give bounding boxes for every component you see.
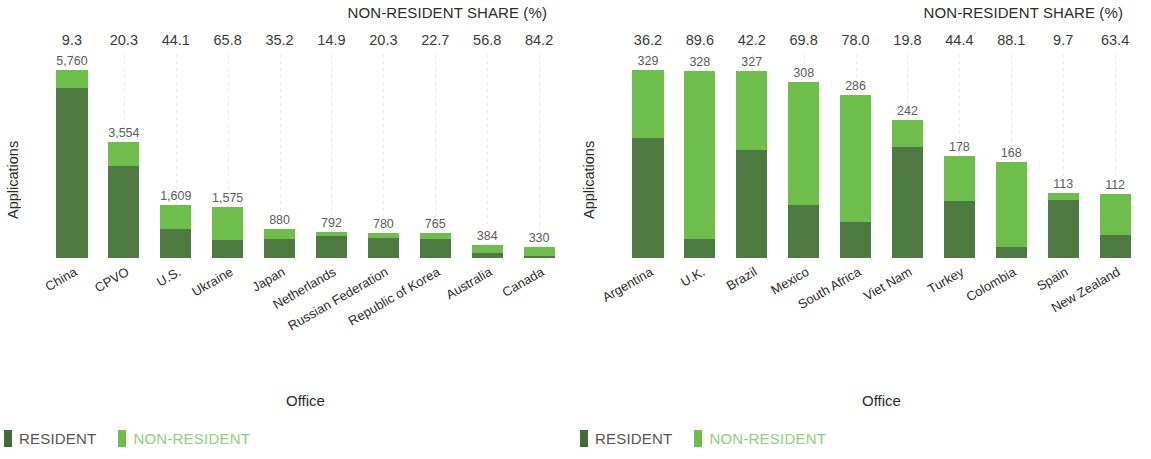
bar-slot[interactable]: 1,575 bbox=[202, 54, 254, 258]
chart-panel-right: NON-RESIDENT SHARE (%) 36.289.642.269.87… bbox=[576, 0, 1151, 459]
stacked-bar[interactable] bbox=[420, 233, 451, 258]
non-resident-share-value: 42.2 bbox=[726, 30, 778, 50]
plot-area-right: 329328327308286242178168113112 bbox=[622, 54, 1141, 258]
stacked-bar[interactable] bbox=[316, 232, 347, 258]
bar-slot[interactable]: 384 bbox=[461, 54, 513, 258]
bar-segment-non-resident[interactable] bbox=[524, 247, 555, 256]
stacked-bar[interactable] bbox=[1048, 193, 1079, 258]
bar-segment-non-resident[interactable] bbox=[56, 70, 87, 87]
bar-slot[interactable]: 792 bbox=[306, 54, 358, 258]
stacked-bar[interactable] bbox=[108, 142, 139, 258]
bar-segment-resident[interactable] bbox=[736, 150, 767, 258]
stacked-bar[interactable] bbox=[996, 162, 1027, 258]
non-resident-share-value: 63.4 bbox=[1089, 30, 1141, 50]
stacked-bar[interactable] bbox=[632, 70, 663, 258]
bar-segment-non-resident[interactable] bbox=[736, 71, 767, 150]
bar-segment-non-resident[interactable] bbox=[160, 205, 191, 228]
bar-segment-resident[interactable] bbox=[264, 239, 295, 258]
bar-segment-resident[interactable] bbox=[892, 147, 923, 258]
category-slot: Australia bbox=[461, 258, 513, 363]
bar-segment-resident[interactable] bbox=[996, 247, 1027, 258]
bar-segment-resident[interactable] bbox=[368, 238, 399, 258]
bar-segment-resident[interactable] bbox=[1048, 200, 1079, 258]
bar-slot[interactable]: 780 bbox=[357, 54, 409, 258]
bar-segment-non-resident[interactable] bbox=[108, 142, 139, 166]
bar-slot[interactable]: 112 bbox=[1089, 54, 1141, 258]
bar-segment-non-resident[interactable] bbox=[840, 95, 871, 222]
bar-slot[interactable]: 308 bbox=[778, 54, 830, 258]
stacked-bar[interactable] bbox=[524, 247, 555, 258]
bar-slot[interactable]: 5,760 bbox=[46, 54, 98, 258]
bar-segment-resident[interactable] bbox=[788, 205, 819, 258]
bar-segment-non-resident[interactable] bbox=[1100, 194, 1131, 235]
stacked-bar[interactable] bbox=[788, 82, 819, 258]
bar-slot[interactable]: 328 bbox=[674, 54, 726, 258]
bar-slot[interactable]: 330 bbox=[513, 54, 565, 258]
stacked-bar[interactable] bbox=[264, 229, 295, 258]
stacked-bar[interactable] bbox=[736, 71, 767, 258]
legend-item-resident: RESIDENT bbox=[580, 430, 672, 447]
bar-slot[interactable]: 765 bbox=[409, 54, 461, 258]
bar-slot[interactable]: 880 bbox=[254, 54, 306, 258]
bar-slot[interactable]: 168 bbox=[985, 54, 1037, 258]
x-axis-category-labels-right: ArgentinaU.K.BrazilMexicoSouth AfricaVie… bbox=[622, 258, 1141, 363]
non-resident-share-value: 22.7 bbox=[409, 30, 461, 50]
x-axis-tick-label: CPVO bbox=[92, 264, 131, 295]
bar-segment-non-resident[interactable] bbox=[632, 70, 663, 138]
legend-swatch-non-resident-icon bbox=[118, 430, 126, 447]
stacked-bar[interactable] bbox=[944, 156, 975, 258]
legend-swatch-resident-icon bbox=[4, 430, 12, 447]
category-slot: New Zealand bbox=[1089, 258, 1141, 363]
bar-slot[interactable]: 329 bbox=[622, 54, 674, 258]
bar-segment-resident[interactable] bbox=[56, 88, 87, 259]
bar-slot[interactable]: 242 bbox=[882, 54, 934, 258]
legend-right: RESIDENT NON-RESIDENT bbox=[580, 430, 826, 447]
stacked-bar[interactable] bbox=[1100, 194, 1131, 258]
chart-panel-left: NON-RESIDENT SHARE (%) 9.320.344.165.835… bbox=[0, 0, 575, 459]
bar-segment-non-resident[interactable] bbox=[264, 229, 295, 239]
bar-segment-resident[interactable] bbox=[108, 166, 139, 258]
bar-segment-resident[interactable] bbox=[160, 229, 191, 258]
stacked-bar[interactable] bbox=[212, 207, 243, 258]
bar-slot[interactable]: 327 bbox=[726, 54, 778, 258]
bar-segment-resident[interactable] bbox=[212, 240, 243, 258]
bar-slot[interactable]: 286 bbox=[830, 54, 882, 258]
bar-segment-resident[interactable] bbox=[632, 138, 663, 258]
bar-segment-non-resident[interactable] bbox=[996, 162, 1027, 247]
stacked-bar[interactable] bbox=[892, 120, 923, 258]
bar-segment-non-resident[interactable] bbox=[684, 71, 715, 239]
bar-segment-resident[interactable] bbox=[1100, 235, 1131, 258]
bar-slot[interactable]: 1,609 bbox=[150, 54, 202, 258]
stacked-bar[interactable] bbox=[684, 71, 715, 258]
bar-value-label: 3,554 bbox=[98, 126, 150, 140]
non-resident-share-value: 9.3 bbox=[46, 30, 98, 50]
bar-segment-resident[interactable] bbox=[316, 236, 347, 258]
bar-value-label: 112 bbox=[1089, 178, 1141, 192]
bar-segment-non-resident[interactable] bbox=[944, 156, 975, 201]
stacked-bar[interactable] bbox=[840, 95, 871, 258]
bar-segment-non-resident[interactable] bbox=[892, 120, 923, 147]
legend-label-non-resident: NON-RESIDENT bbox=[133, 430, 250, 447]
chart-page: NON-RESIDENT SHARE (%) 9.320.344.165.835… bbox=[0, 0, 1151, 459]
bar-slot[interactable]: 3,554 bbox=[98, 54, 150, 258]
bar-value-label: 1,609 bbox=[150, 189, 202, 203]
bar-segment-non-resident[interactable] bbox=[788, 82, 819, 205]
bar-value-label: 780 bbox=[357, 217, 409, 231]
stacked-bar[interactable] bbox=[472, 245, 503, 258]
bar-segment-non-resident[interactable] bbox=[472, 245, 503, 252]
stacked-bar[interactable] bbox=[160, 205, 191, 258]
bar-segment-resident[interactable] bbox=[420, 239, 451, 258]
bar-value-label: 792 bbox=[306, 216, 358, 230]
category-slot: Brazil bbox=[726, 258, 778, 363]
bar-segment-resident[interactable] bbox=[840, 222, 871, 258]
bar-slot[interactable]: 178 bbox=[933, 54, 985, 258]
bar-segment-resident[interactable] bbox=[944, 201, 975, 258]
x-axis-tick-label: Argentina bbox=[600, 264, 656, 305]
stacked-bar[interactable] bbox=[56, 70, 87, 258]
x-axis-tick-label: Spain bbox=[1034, 264, 1070, 294]
category-slot: U.S. bbox=[150, 258, 202, 363]
bar-slot[interactable]: 113 bbox=[1037, 54, 1089, 258]
bar-segment-resident[interactable] bbox=[684, 239, 715, 258]
bar-segment-non-resident[interactable] bbox=[212, 207, 243, 241]
stacked-bar[interactable] bbox=[368, 233, 399, 258]
